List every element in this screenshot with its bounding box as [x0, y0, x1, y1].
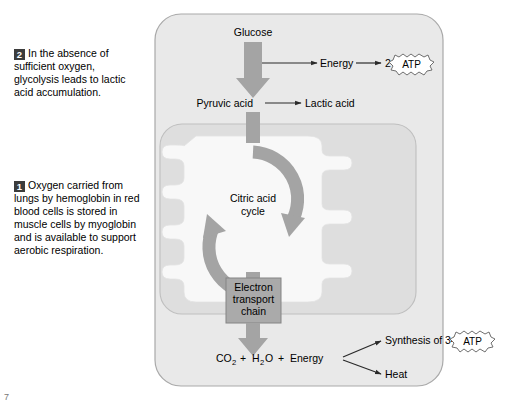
citric-acid-cycle-label-line1: Citric acid — [230, 192, 276, 204]
callout-2: 2In the absence of sufficient oxygen, gl… — [14, 47, 142, 99]
page-bottom-mark: 7 — [4, 392, 9, 402]
h2o-label-h: H — [252, 352, 260, 364]
h2o-subscript: 2 — [260, 358, 264, 367]
atp-top-text: ATP — [402, 59, 421, 70]
pyruvic-acid-label: Pyruvic acid — [196, 97, 253, 109]
etc-label-line3: chain — [241, 305, 266, 317]
atp-badge-bottom: ATP — [450, 331, 495, 352]
glucose-label: Glucose — [234, 26, 273, 38]
figure-canvas: Electron transport chain Glucose Energy … — [0, 0, 506, 409]
pyruvic-to-cycle-arrow — [246, 112, 260, 143]
lactic-acid-label: Lactic acid — [305, 97, 355, 109]
heat-label: Heat — [385, 368, 407, 380]
energy-top-label: Energy — [320, 57, 354, 69]
callout-2-number: 2 — [14, 49, 25, 60]
callout-1-number: 1 — [14, 181, 25, 192]
co2-label: CO — [216, 352, 232, 364]
plus-sign-1: + — [240, 352, 246, 364]
callout-1-text: Oxygen carried from lungs by hemoglobin … — [14, 179, 140, 256]
synthesis-label: Synthesis of 34 — [385, 334, 457, 346]
etc-label-line2: transport — [233, 293, 275, 305]
co2-subscript: 2 — [232, 358, 236, 367]
citric-acid-cycle-label-line2: cycle — [241, 205, 265, 217]
etc-label-line1: Electron — [234, 281, 273, 293]
h2o-label-o: O — [265, 352, 273, 364]
energy-bottom-label: Energy — [290, 352, 324, 364]
plus-sign-2: + — [278, 352, 284, 364]
atp-bottom-text: ATP — [463, 336, 482, 347]
callout-1: 1Oxygen carried from lungs by hemoglobin… — [14, 179, 142, 258]
callout-2-text: In the absence of sufficient oxygen, gly… — [14, 47, 125, 98]
